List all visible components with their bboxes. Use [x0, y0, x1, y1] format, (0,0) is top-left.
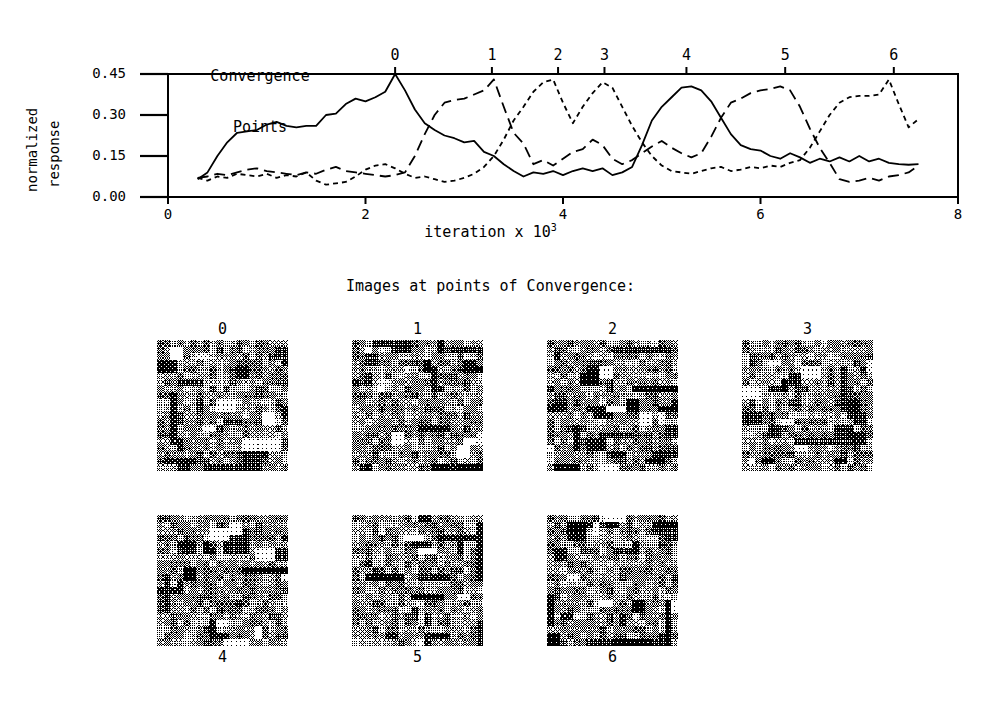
figure-root: Convergence Points 0123456 normalized re…: [0, 0, 981, 719]
convergence-image-thumbnail-6: [547, 515, 678, 646]
convergence-image-0: 0: [157, 318, 288, 471]
convergence-image-thumbnail-3: [742, 340, 873, 471]
convergence-image-5: 5: [352, 515, 483, 668]
series-unit-b: [198, 79, 919, 182]
convergence-image-4: 4: [157, 515, 288, 668]
convergence-image-1: 1: [352, 318, 483, 471]
convergence-image-grid: 0123456: [0, 300, 981, 719]
convergence-image-6: 6: [547, 515, 678, 668]
convergence-image-3: 3: [742, 318, 873, 471]
convergence-image-thumbnail-1: [352, 340, 483, 471]
convergence-image-label-0: 0: [157, 318, 288, 340]
x-axis-title: iteration x 103: [0, 222, 981, 241]
convergence-image-thumbnail-0: [157, 340, 288, 471]
convergence-image-2: 2: [547, 318, 678, 471]
convergence-image-label-3: 3: [742, 318, 873, 340]
x-axis-title-exponent: 3: [551, 222, 557, 233]
convergence-image-label-5: 5: [352, 646, 483, 668]
convergence-image-thumbnail-2: [547, 340, 678, 471]
response-chart: Convergence Points 0123456 normalized re…: [0, 0, 981, 265]
series-unit-c: [198, 79, 919, 184]
images-caption: Images at points of Convergence:: [0, 277, 981, 295]
x-axis-title-text: iteration x 10: [424, 223, 550, 241]
plot-frame: [168, 74, 958, 197]
convergence-image-label-2: 2: [547, 318, 678, 340]
convergence-image-thumbnail-4: [157, 515, 288, 646]
convergence-image-label-1: 1: [352, 318, 483, 340]
convergence-image-label-4: 4: [157, 646, 288, 668]
convergence-image-thumbnail-5: [352, 515, 483, 646]
convergence-image-label-6: 6: [547, 646, 678, 668]
